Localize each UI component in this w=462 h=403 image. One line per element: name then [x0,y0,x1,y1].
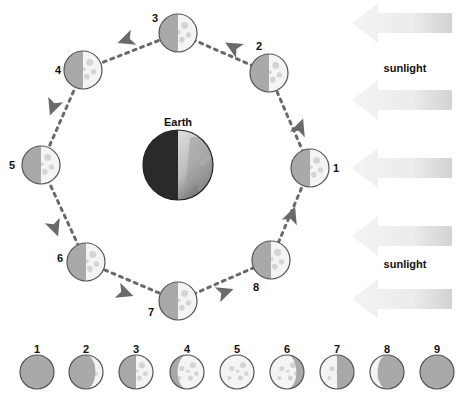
phase-number-label: 8 [384,343,390,355]
orbit-position-label: 3 [152,12,158,24]
earth-label: Earth [164,116,192,128]
moon-icon [159,282,197,320]
sunlight-arrow-icon [352,3,452,43]
moon-icon [64,51,102,89]
moon-icon [170,355,204,389]
earth-globe [143,130,215,200]
moon-icon [320,355,354,389]
sunlight-arrow-icon [352,80,452,120]
sunlight-arrow-icon [352,279,452,319]
orbit-arrow-icon [42,97,63,118]
moon-icon [420,355,454,389]
moon-icon [252,241,290,279]
moon-icon [270,355,304,389]
sunlight-arrow-icon [352,148,452,188]
moon-icon [22,146,60,184]
moon-icon [370,355,404,389]
moon-icon [20,355,54,389]
phase-number-label: 5 [234,343,240,355]
orbit-position-label: 1 [333,162,339,174]
sunlight-label: sunlight [384,258,427,270]
orbit-arrow-icon [115,283,136,304]
phase-number-label: 1 [34,343,40,355]
moon-icon [250,54,288,92]
phase-number-label: 2 [83,343,89,355]
phase-number-label: 6 [284,343,290,355]
orbit-arrow-icon [282,204,303,225]
orbit-position-label: 8 [253,281,259,293]
moon-phases-diagram: sunlight sunlight Earth 12345678 1234567… [0,0,462,403]
sunlight-label: sunlight [384,62,427,74]
orbit-position-label: 4 [55,64,62,76]
orbit-position-label: 5 [9,159,15,171]
moon-icon [291,149,329,187]
phase-number-label: 3 [133,343,139,355]
moon-icon [159,14,197,52]
moon-icon [67,243,105,281]
orbit-position-label: 6 [57,252,63,264]
phase-number-label: 7 [334,343,340,355]
orbit-position-label: 2 [256,40,262,52]
orbit-position-label: 7 [148,306,154,318]
orbit-arrow-icon [115,30,136,51]
moon-icon [119,355,153,389]
sunlight-arrow-icon [352,216,452,256]
phase-sequence-row: 123456789 [20,343,454,389]
orbit-arrow-icon [290,116,311,137]
phase-number-label: 9 [434,343,440,355]
orbit-arrow-icon [45,218,66,239]
sunlight-arrows [352,3,452,319]
moon-icon [220,355,254,389]
phase-number-label: 4 [184,343,191,355]
moon-icon [69,355,103,389]
